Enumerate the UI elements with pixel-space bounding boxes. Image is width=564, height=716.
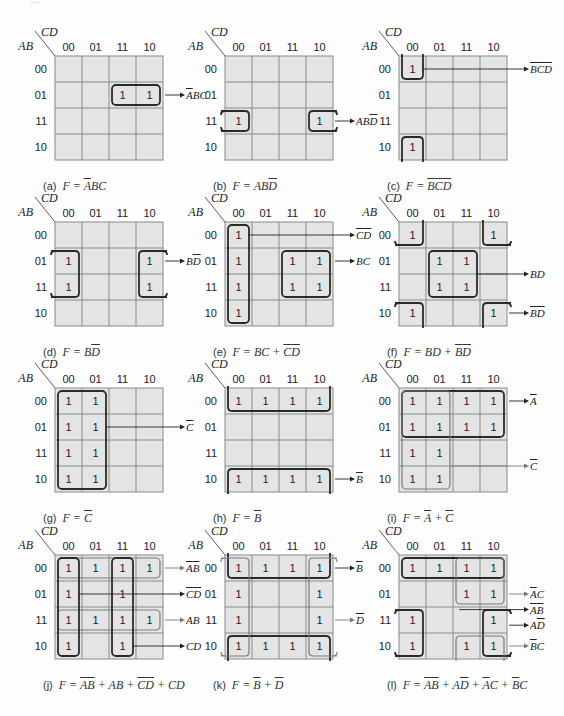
cell-one: 1: [463, 395, 469, 407]
col-var-label: CD: [385, 524, 402, 538]
row-header: 10: [35, 473, 47, 485]
cell-one: 1: [463, 588, 469, 600]
row-header: 10: [35, 640, 47, 652]
col-header: 11: [117, 540, 128, 552]
cell-one: 1: [409, 473, 415, 485]
col-var-label: CD: [41, 191, 58, 205]
cell-one: 1: [235, 229, 241, 241]
col-header: 11: [117, 373, 128, 385]
row-header: 10: [379, 473, 391, 485]
col-header: 00: [232, 207, 244, 219]
cell-one: 1: [235, 588, 241, 600]
cell-one: 1: [65, 640, 71, 652]
cell-one: 1: [463, 255, 469, 267]
row-header: 10: [205, 640, 217, 652]
cell-one: 1: [235, 640, 241, 652]
row-var-label: AB: [361, 39, 377, 53]
col-header: 10: [313, 207, 325, 219]
col-header: 01: [259, 207, 271, 219]
cell-one: 1: [235, 115, 241, 127]
row-header: 00: [35, 229, 47, 241]
col-header: 00: [62, 373, 74, 385]
cell-one: 1: [92, 421, 98, 433]
row-header: 00: [379, 395, 391, 407]
cell-one: 1: [409, 63, 415, 75]
cell-one: 1: [463, 562, 469, 574]
term-label: BD: [530, 265, 564, 283]
kmap-j: CDAB0000010111111010111111111111ABCDABCD: [15, 525, 205, 695]
cropped-top-text: …: [30, 0, 330, 4]
col-header: 10: [143, 373, 155, 385]
row-header: 01: [379, 421, 391, 433]
caption-tag: (k): [213, 679, 226, 691]
col-header: 01: [89, 41, 101, 53]
term-label: A: [530, 392, 564, 410]
kmap-drawing: CDAB0000010111111010111111111111ABCDABCD: [15, 525, 205, 695]
cell-one: 1: [146, 89, 152, 101]
row-header: 10: [379, 640, 391, 652]
cell-one: 1: [146, 614, 152, 626]
kmap-g: CDAB000001011111101011111111C: [15, 358, 205, 528]
term-label: BD: [530, 304, 564, 322]
row-header: 11: [36, 614, 47, 626]
cell-one: 1: [316, 395, 322, 407]
row-header: 01: [379, 255, 391, 267]
row-header: 00: [205, 562, 217, 574]
kmap-drawing: CDAB000001011111101011BCD: [359, 26, 549, 196]
caption-expression: F = BD + BD: [403, 345, 471, 359]
row-header: 00: [379, 63, 391, 75]
row-header: 01: [205, 89, 217, 101]
kmap-drawing: CDAB000001011111101011111111C: [15, 358, 205, 528]
cell-one: 1: [463, 281, 469, 293]
col-header: 00: [62, 540, 74, 552]
caption-tag: (l): [387, 679, 397, 691]
term-label: BCD: [530, 60, 564, 78]
kmap-c: CDAB000001011111101011BCD: [359, 26, 549, 196]
col-header: 01: [433, 41, 445, 53]
kmap-i: CDAB0000010111111010111111111111AC: [359, 358, 549, 528]
term-label: AD: [530, 616, 564, 634]
col-header: 10: [313, 41, 325, 53]
row-header: 11: [206, 281, 217, 293]
cell-one: 1: [490, 229, 496, 241]
cell-one: 1: [463, 640, 469, 652]
cell-one: 1: [409, 421, 415, 433]
cell-one: 1: [65, 473, 71, 485]
cell-one: 1: [490, 307, 496, 319]
col-header: 11: [287, 373, 298, 385]
cell-one: 1: [409, 447, 415, 459]
row-header: 01: [205, 255, 217, 267]
cell-one: 1: [119, 640, 125, 652]
caption-expression: F = B + D: [232, 678, 284, 692]
cell-one: 1: [436, 562, 442, 574]
cell-one: 1: [436, 395, 442, 407]
col-var-label: CD: [211, 191, 228, 205]
row-var-label: AB: [187, 205, 203, 219]
row-header: 11: [36, 115, 47, 127]
col-header: 01: [89, 207, 101, 219]
cell-one: 1: [119, 89, 125, 101]
col-header: 10: [143, 540, 155, 552]
row-var-label: AB: [17, 205, 33, 219]
kmap-h: CDAB000001011111101011111111B: [185, 358, 375, 528]
cell-one: 1: [316, 115, 322, 127]
row-var-label: AB: [17, 39, 33, 53]
row-header: 01: [379, 89, 391, 101]
cell-one: 1: [316, 562, 322, 574]
row-var-label: AB: [361, 538, 377, 552]
caption-tag: (j): [43, 679, 53, 691]
cell-one: 1: [235, 473, 241, 485]
kmap-drawing: CDAB000001011111101011111111111ACABADBC: [359, 525, 549, 695]
row-header: 00: [205, 395, 217, 407]
col-header: 11: [287, 41, 298, 53]
kmap-d: CDAB00000101111110101111BD: [15, 192, 205, 362]
cell-one: 1: [119, 614, 125, 626]
row-var-label: AB: [187, 371, 203, 385]
col-var-label: CD: [211, 25, 228, 39]
row-header: 01: [35, 255, 47, 267]
kmap-e: CDAB000001011111101011111111CDBC: [185, 192, 375, 362]
col-header: 11: [287, 540, 298, 552]
col-header: 00: [406, 41, 418, 53]
row-header: 00: [379, 562, 391, 574]
row-header: 10: [35, 307, 47, 319]
